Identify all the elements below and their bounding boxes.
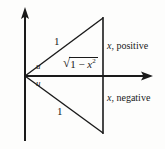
axis-label-x-negative-text: , negative (111, 92, 150, 103)
radicand: 1 − x2 (69, 57, 98, 70)
angle-label-lower: u (36, 79, 41, 88)
axis-label-x-positive: x, positive (107, 41, 148, 51)
radicand-exponent: 2 (92, 57, 96, 65)
radical-sign-icon: √ (63, 56, 70, 69)
hypotenuse-label-upper: 1 (54, 36, 60, 47)
base-length-label: √ 1 − x2 (63, 57, 98, 70)
radicand-leading-term: 1 − (70, 58, 87, 70)
angle-label-upper: u (36, 62, 41, 71)
hypotenuse-label-lower: 1 (57, 106, 63, 117)
axis-label-x-negative: x, negative (107, 93, 150, 103)
diagram-canvas (0, 0, 165, 149)
figure-container: u u 1 1 √ 1 − x2 x, positive x, negative (0, 0, 165, 149)
axis-label-x-positive-text: , positive (111, 40, 148, 51)
